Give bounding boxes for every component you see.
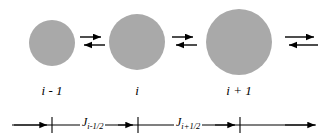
flux-label-i-minus-half: Ji-1/2 <box>80 116 105 131</box>
flux-axis <box>0 0 326 140</box>
flux-label-i-plus-half: Ji+1/2 <box>174 116 202 131</box>
diffusion-chain-figure: i - 1 i i + 1 Ji-1/2 Ji+1/2 <box>0 0 326 140</box>
flux-subscript: i-1/2 <box>87 121 103 131</box>
flux-subscript: i+1/2 <box>181 121 200 131</box>
